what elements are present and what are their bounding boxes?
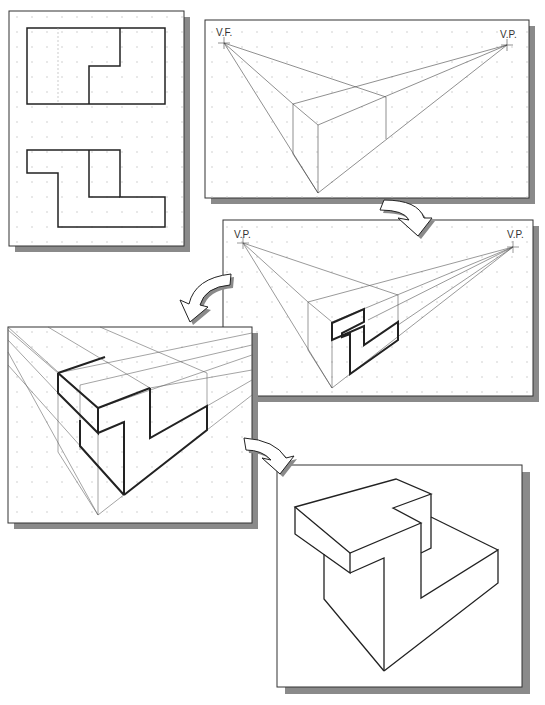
panel-step-1-box: V.F. V.P. <box>205 20 535 204</box>
panel-step-4-final <box>277 465 530 694</box>
vp-left-label-2: V.P. <box>234 229 251 240</box>
perspective-diagram: V.F. V.P. V.P. V.P. <box>0 0 545 705</box>
panel-step-2-profile: V.P. V.P. <box>223 220 539 402</box>
vp-left-label: V.F. <box>216 27 232 38</box>
panel-orthographic-views <box>9 11 190 252</box>
vp-right-label: V.P. <box>500 29 517 40</box>
vp-right-label-2: V.P. <box>507 229 524 240</box>
panel-step-3-extrude <box>8 327 258 529</box>
